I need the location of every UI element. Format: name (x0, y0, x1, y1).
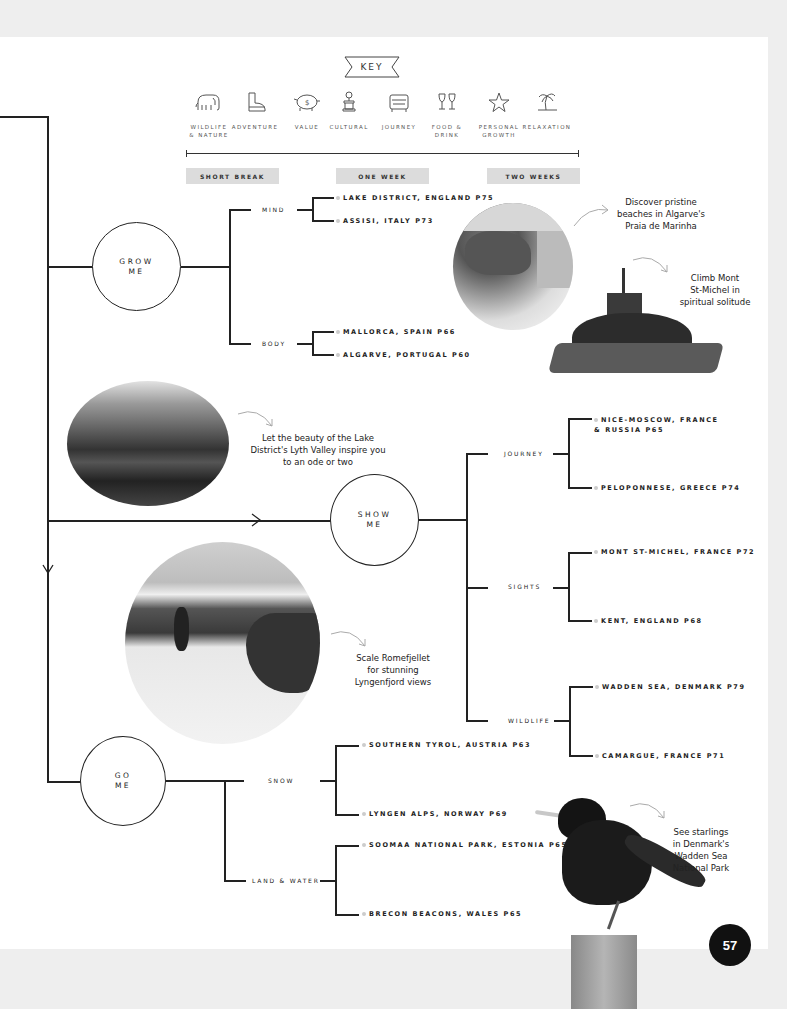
mind-dest2-line (312, 220, 334, 222)
snow-dest2-line (335, 814, 359, 816)
caption-mont-st-michel: Climb Mont St-Michel in spiritual solitu… (670, 272, 760, 308)
category-mind: MIND (262, 206, 285, 213)
svg-text:$: $ (305, 99, 309, 107)
lyngen-ski-photo (125, 542, 320, 744)
category-sights: SIGHTS (508, 583, 541, 590)
category-snow: SNOW (268, 777, 294, 784)
caption-starlings: See starlings in Denmark's Wadden Sea Na… (661, 826, 741, 874)
go-land-water-stub (224, 880, 246, 882)
sights-dest2-line (568, 620, 592, 622)
bullet-icon (594, 550, 598, 554)
destination-lake-district[interactable]: LAKE DISTRICT, ENGLAND P75 (336, 194, 494, 202)
grow-body-stub (229, 343, 251, 345)
spine-entry-line (0, 116, 48, 118)
duration-axis-start-tick (186, 150, 187, 157)
mind-vertical (312, 197, 314, 221)
mind-dest1-line (312, 197, 334, 199)
grow-connector (47, 266, 93, 268)
body-dest1-line (312, 331, 334, 333)
grow-mind-stub (229, 209, 251, 211)
grow-me-node[interactable]: GROW ME (92, 222, 181, 311)
bullet-icon (594, 418, 598, 422)
land-water-dest2-line (335, 914, 359, 916)
car-icon (384, 90, 414, 114)
duration-axis (186, 153, 579, 154)
caption-algarve: Discover pristine beaches in Algarve's P… (606, 196, 716, 232)
bullet-icon (362, 743, 366, 747)
snow-vertical (335, 745, 337, 815)
grow-branch-vertical (229, 209, 231, 344)
destination-wadden-sea[interactable]: WADDEN SEA, DENMARK P79 (595, 683, 746, 691)
curved-arrow-icon (329, 628, 369, 654)
destination-kent[interactable]: KENT, ENGLAND P68 (594, 617, 703, 625)
caption-lyngen: Scale Romefjellet for stunning Lyngenfjo… (348, 652, 438, 688)
destination-mont-st-michel[interactable]: MONT ST-MICHEL, FRANCE P72 (594, 548, 755, 556)
show-journey-stub (466, 453, 488, 455)
destination-assisi[interactable]: ASSISI, ITALY P73 (336, 217, 434, 225)
category-body: BODY (262, 340, 286, 347)
right-arrow-icon (250, 513, 262, 527)
show-wildlife-stub (466, 720, 488, 722)
land-water-line (320, 880, 336, 882)
go-branch-vertical (224, 780, 226, 881)
destination-brecon-beacons[interactable]: BRECON BEACONS, WALES P65 (362, 910, 522, 918)
palm-tree-icon (532, 90, 562, 114)
journey-dest1-line (568, 418, 592, 420)
sights-vertical (568, 552, 570, 621)
key-item-relaxation: RELAXATION (522, 90, 572, 131)
key-banner: KEY (344, 56, 400, 78)
destination-camargue[interactable]: CAMARGUE, FRANCE P71 (595, 752, 725, 760)
key-item-journey: JOURNEY (374, 90, 424, 131)
key-item-personal-growth: PERSONAL GROWTH (474, 90, 524, 139)
category-journey: JOURNEY (504, 450, 544, 457)
bullet-icon (336, 219, 340, 223)
duration-one-week: ONE WEEK (336, 168, 429, 184)
wine-glasses-icon (432, 90, 462, 114)
grow-branch-line (181, 266, 230, 268)
destination-southern-tyrol[interactable]: SOUTHERN TYROL, AUSTRIA P63 (362, 741, 531, 749)
bullet-icon (336, 196, 340, 200)
go-branch-line (166, 780, 244, 782)
bullet-icon (362, 843, 366, 847)
bullet-icon (336, 330, 340, 334)
elephant-icon (194, 90, 224, 114)
lake-district-photo (67, 381, 229, 506)
show-sights-stub (466, 587, 488, 589)
sights-line (553, 587, 569, 589)
bullet-icon (362, 912, 366, 916)
key-item-cultural: CULTURAL (324, 90, 374, 131)
curved-arrow-icon (236, 408, 276, 434)
star-icon (484, 90, 514, 114)
destination-peloponnese[interactable]: PELOPONNESE, GREECE P74 (594, 484, 740, 492)
wildlife-line (554, 720, 569, 722)
go-me-node[interactable]: GO ME (80, 736, 166, 826)
body-dest2-line (312, 354, 334, 356)
destination-lyngen-alps[interactable]: LYNGEN ALPS, NORWAY P69 (362, 810, 508, 818)
bullet-icon (336, 353, 340, 357)
key-item-wildlife: WILDLIFE & NATURE (184, 90, 234, 139)
show-me-node[interactable]: SHOW ME (330, 474, 419, 566)
sights-dest1-line (568, 552, 592, 554)
destination-algarve[interactable]: ALGARVE, PORTUGAL P60 (336, 351, 471, 359)
snow-line (320, 780, 336, 782)
curved-arrow-icon (628, 800, 668, 826)
destination-mallorca[interactable]: MALLORCA, SPAIN P66 (336, 328, 456, 336)
main-spine (47, 116, 49, 782)
duration-short-break: SHORT BREAK (186, 168, 279, 184)
spine-down-arrow-icon (42, 563, 54, 575)
piggy-bank-icon: $ (292, 90, 322, 114)
key-item-adventure: ADVENTURE (230, 90, 280, 131)
destination-nice-moscow[interactable]: NICE-MOSCOW, FRANCE & RUSSIA P65 (594, 415, 719, 435)
boot-icon (240, 90, 270, 114)
land-water-dest1-line (335, 845, 359, 847)
show-branch-line (419, 519, 467, 521)
page-number-badge: 57 (709, 924, 751, 966)
bullet-icon (595, 754, 599, 758)
mind-line (297, 209, 312, 211)
body-line (297, 343, 312, 345)
journey-vertical (568, 418, 570, 488)
bullet-icon (595, 685, 599, 689)
curved-arrow-icon (631, 254, 671, 278)
category-wildlife: WILDLIFE (508, 717, 550, 724)
journey-line (553, 453, 569, 455)
